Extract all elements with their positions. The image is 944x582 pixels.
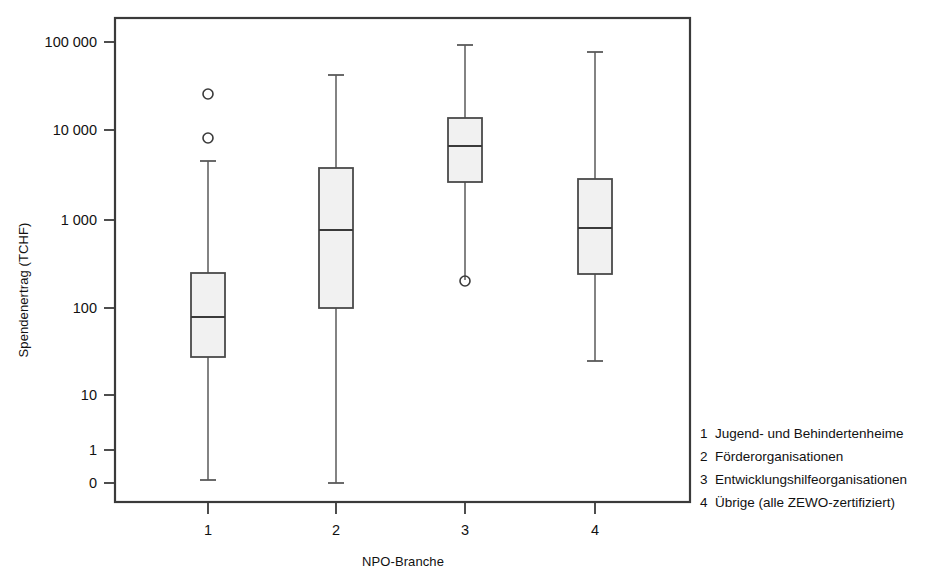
x-tick-label: 1 [204, 522, 212, 538]
y-tick-label: 0 [89, 475, 97, 491]
y-tick-label: 10 000 [53, 122, 97, 138]
boxplot-svg: 100 00010 0001 0001001010 1234 Spendener… [0, 0, 944, 582]
x-axis: 1234 [204, 502, 599, 538]
boxplot-box-3 [448, 45, 482, 286]
legend-key: 2 [700, 449, 708, 464]
legend-key: 3 [700, 472, 708, 487]
legend-key: 4 [700, 495, 708, 510]
legend-key: 1 [700, 426, 708, 441]
boxplot-box-2 [319, 75, 353, 483]
y-tick-label: 1 000 [61, 212, 97, 228]
legend: 1Jugend- und Behindertenheime2Förderorga… [700, 426, 907, 510]
iqr-box [319, 168, 353, 308]
iqr-box [191, 273, 225, 357]
iqr-box [578, 179, 612, 274]
box-series [191, 45, 612, 483]
boxplot-figure: 100 00010 0001 0001001010 1234 Spendener… [0, 0, 944, 582]
legend-label: Entwicklungshilfeorganisationen [715, 472, 907, 487]
y-tick-label: 100 [73, 300, 97, 316]
y-axis: 100 00010 0001 0001001010 [45, 34, 115, 491]
y-axis-title: Spendenertrag (TCHF) [16, 223, 31, 358]
outlier-point [203, 89, 213, 99]
y-tick-label: 100 000 [45, 34, 97, 50]
legend-label: Übrige (alle ZEWO-zertifiziert) [715, 495, 895, 510]
x-tick-label: 2 [332, 522, 340, 538]
outlier-point [203, 133, 213, 143]
legend-label: Förderorganisationen [715, 449, 843, 464]
legend-label: Jugend- und Behindertenheime [715, 426, 903, 441]
iqr-box [448, 118, 482, 182]
boxplot-box-4 [578, 52, 612, 361]
y-tick-label: 1 [89, 442, 97, 458]
x-axis-title: NPO-Branche [362, 554, 444, 569]
y-tick-label: 10 [81, 387, 97, 403]
x-tick-label: 4 [591, 522, 599, 538]
x-tick-label: 3 [461, 522, 469, 538]
boxplot-box-1 [191, 89, 225, 480]
